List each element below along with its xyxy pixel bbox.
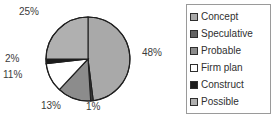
pie-value-label-25: 25%: [19, 6, 39, 17]
chart-legend: Concept Speculative Probable Firm plan C…: [186, 4, 271, 114]
legend-swatch-icon: [190, 81, 198, 89]
pie-value-label-48: 48%: [142, 47, 162, 58]
pie-chart-plot-area: 25% 48% 2% 11% 13% 1%: [0, 0, 184, 118]
legend-swatch-icon: [190, 13, 198, 21]
pie-value-label-1: 1%: [86, 101, 100, 112]
legend-item-construct: Construct: [190, 76, 270, 93]
legend-swatch-icon: [190, 30, 198, 38]
legend-item-label: Possible: [201, 96, 239, 107]
legend-item-firm-plan: Firm plan: [190, 59, 270, 76]
legend-swatch-icon: [190, 64, 198, 72]
pie-slice-concept: [88, 17, 130, 101]
legend-swatch-icon: [190, 98, 198, 106]
legend-item-speculative: Speculative: [190, 25, 270, 42]
legend-item-label: Construct: [201, 79, 244, 90]
legend-item-label: Concept: [201, 11, 238, 22]
legend-item-label: Probable: [201, 45, 241, 56]
legend-item-probable: Probable: [190, 42, 270, 59]
legend-item-concept: Concept: [190, 8, 270, 25]
pie-chart-figure: 25% 48% 2% 11% 13% 1% Concept Speculativ…: [0, 0, 276, 118]
legend-item-label: Speculative: [201, 28, 253, 39]
legend-item-possible: Possible: [190, 93, 270, 110]
pie-value-label-13: 13%: [41, 100, 61, 111]
legend-item-label: Firm plan: [201, 62, 243, 73]
legend-swatch-icon: [190, 47, 198, 55]
pie-value-label-2: 2%: [5, 53, 19, 64]
pie-value-label-11: 11%: [3, 69, 22, 80]
